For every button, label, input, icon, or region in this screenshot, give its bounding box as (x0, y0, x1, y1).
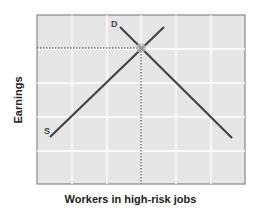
demand-label: D (111, 19, 118, 29)
x-axis-label: Workers in high-risk jobs (0, 193, 261, 205)
equilibrium-point (136, 43, 146, 53)
supply-demand-chart: D S (0, 0, 261, 211)
supply-label: S (44, 126, 50, 136)
y-axis-label: Earnings (12, 76, 24, 123)
